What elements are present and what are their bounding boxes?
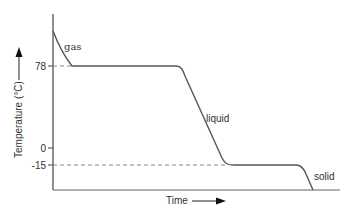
y-axis-title: Temperature (°C) [13,81,24,158]
tick-label-78: 78 [35,61,47,72]
x-axis-arrow-icon [216,198,226,205]
cooling-curve-chart: 78 0 -15 gas liquid solid Temperature (°… [0,0,353,214]
label-liquid: liquid [206,113,229,124]
label-gas: gas [64,41,82,52]
cooling-curve [53,31,313,190]
tick-label-minus15: -15 [32,160,47,171]
label-solid: solid [314,171,335,182]
y-axis-arrow-icon [16,47,23,57]
tick-label-0: 0 [40,143,46,154]
y-axis-label: Temperature (°C) [13,81,24,158]
x-axis-label: Time [166,195,188,206]
